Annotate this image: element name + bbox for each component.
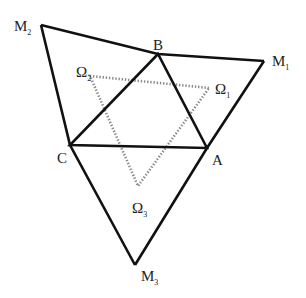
label-b: B — [153, 37, 163, 53]
label-m3: M3 — [141, 268, 158, 287]
label-omega2: Ω2 — [76, 64, 91, 83]
label-m2: M2 — [14, 18, 31, 37]
dotted-triangle-omega — [90, 76, 209, 186]
label-omega3: Ω3 — [132, 200, 147, 219]
label-omega1: Ω1 — [215, 81, 230, 100]
triangle-abc — [70, 54, 207, 148]
label-m1: M1 — [272, 53, 289, 72]
geometry-diagram: M2 B M1 Ω2 Ω1 C A Ω3 M3 — [0, 0, 306, 298]
label-a: A — [212, 152, 223, 168]
label-c: C — [57, 150, 67, 166]
segment-m1-a-m3 — [135, 61, 264, 265]
